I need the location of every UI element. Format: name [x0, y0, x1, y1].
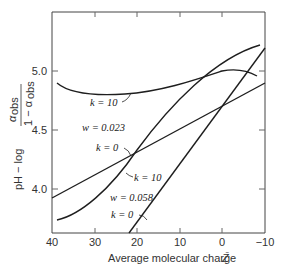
x-axis-symbol: Z̄ [221, 252, 230, 264]
x-tick-label: 30 [89, 236, 101, 248]
x-tick-label: 10 [174, 236, 186, 248]
y-frac-den-sub: obs [24, 81, 36, 99]
x-tick-label: −10 [256, 236, 275, 248]
line-w0058-k0 [129, 48, 265, 233]
curve-w0023-k10 [57, 70, 257, 95]
y-frac-denominator: 1 − α [22, 100, 34, 126]
annotation-w0058: w = 0.058 [110, 192, 154, 203]
annotation-arrow [124, 148, 131, 156]
x-tick-labels: 40 30 20 10 0 −10 [46, 236, 274, 248]
x-tick-label: 0 [219, 236, 225, 248]
curves [52, 45, 265, 233]
y-tick-label: 4.0 [32, 183, 47, 195]
chart: 40 30 20 10 0 −10 5.0 4.5 4.0 Average mo… [0, 0, 296, 269]
annotation-k0-mid: k = 0 [96, 142, 119, 153]
x-axis-label: Average molecular charge Z̄ [108, 252, 236, 264]
annotation-w0023: w = 0.023 [82, 122, 125, 133]
y-frac-num-sub: obs [8, 97, 20, 115]
y-axis-label-prefix: pH − log [12, 149, 24, 190]
y-tick-label: 5.0 [32, 65, 47, 77]
annotation-k10-top: k = 10 [90, 97, 118, 108]
annotation-arrow [126, 173, 133, 177]
annotations: k = 10 w = 0.023 k = 0 k = 10 w = 0.058 … [82, 93, 162, 220]
x-tick-label: 40 [46, 236, 58, 248]
annotation-k10-mid: k = 10 [134, 172, 162, 183]
y-frac-numerator: α [6, 115, 18, 122]
x-tick-label: 20 [131, 236, 143, 248]
x-axis-label-text: Average molecular charge [108, 252, 236, 264]
annotation-k0-bot: k = 0 [111, 209, 134, 220]
